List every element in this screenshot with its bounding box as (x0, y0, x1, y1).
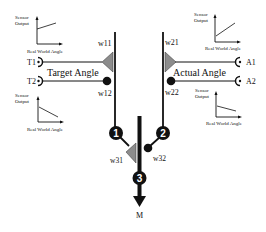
synapse-w32-inhibitory-icon (144, 144, 153, 153)
sensor-t2-dot-icon (37, 80, 39, 82)
graph-a2-ylabel-1: Sensor (195, 88, 209, 93)
neuron-1: 1 (109, 126, 123, 140)
graph-t1-ylabel-1: Sensor (15, 15, 29, 20)
synapse-w12-inhibitory-icon (103, 77, 112, 86)
weight-w31-label: w31 (110, 156, 123, 165)
weight-w32-label: w32 (153, 154, 166, 163)
graph-a1-xlabel: Real World Angle (205, 46, 242, 51)
sensor-t1: T1 (27, 58, 102, 68)
sensor-t2-label: T2 (27, 77, 36, 86)
graph-a2: Sensor Output Real World Angle (195, 88, 243, 126)
sensor-a1: A1 (175, 58, 256, 68)
neural-control-diagram: Sensor Output Real World Angle Sensor Ou… (0, 0, 266, 232)
graph-t2-curve (39, 107, 58, 117)
graph-t1-xlabel: Real World Angle (27, 49, 64, 54)
graph-a2-ylabel-2: Output (195, 94, 210, 99)
graph-t2: Sensor Output Real World Angle (15, 93, 64, 132)
sensor-a2-label: A2 (246, 77, 256, 86)
sensor-t1-dot-icon (37, 61, 39, 63)
synapse-w31-excitatory-icon (126, 143, 136, 163)
sensor-a1-dot-icon (239, 61, 241, 63)
graph-a2-curve (217, 106, 236, 111)
output-arrow-icon (133, 196, 146, 207)
graph-t1-ylabel-2: Output (15, 21, 30, 26)
dendrite-3 (138, 116, 142, 198)
weight-w12-label: w12 (98, 89, 112, 98)
graph-a1-ylabel-2: Output (194, 18, 209, 23)
sensor-t1-label: T1 (27, 58, 36, 67)
graph-t1: Sensor Output Real World Angle (15, 15, 64, 54)
graph-a1-curve (216, 23, 235, 36)
graph-a2-xlabel: Real World Angle (206, 121, 243, 126)
weight-w21-label: w21 (165, 38, 179, 47)
sensor-a1-label: A1 (246, 58, 256, 67)
axon-1-to-3 (120, 137, 129, 146)
neuron-3-label: 3 (137, 173, 143, 184)
output-m-label: M (136, 211, 143, 220)
target-angle-label: Target Angle (47, 67, 99, 78)
weight-w11-label: w11 (98, 39, 111, 48)
synapse-w22-inhibitory-icon (167, 77, 176, 86)
graph-a1: Sensor Output Real World Angle (194, 12, 242, 51)
graph-t2-ylabel-1: Sensor (15, 93, 29, 98)
graph-t1-curve (37, 23, 56, 29)
neuron-2: 2 (156, 126, 170, 140)
synapse-w11-excitatory-icon (102, 52, 113, 72)
neuron-1-label: 1 (113, 128, 119, 139)
graph-t2-xlabel: Real World Angle (27, 127, 64, 132)
sensor-a2-dot-icon (239, 80, 241, 82)
neuron-3: 3 (133, 171, 147, 185)
neuron-2-label: 2 (160, 128, 166, 139)
graph-a1-ylabel-1: Sensor (194, 12, 208, 17)
weight-w22-label: w22 (165, 88, 179, 97)
graph-t2-ylabel-2: Output (15, 99, 30, 104)
actual-angle-label: Actual Angle (173, 67, 227, 78)
